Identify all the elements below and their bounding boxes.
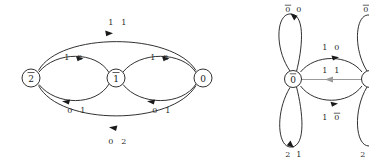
self-loop-top-r1-clipped	[357, 15, 369, 71]
label-self-loop-top-left: 0	[285, 5, 291, 14]
label-straight-left: 1	[322, 66, 328, 75]
arrowhead-arc-top-r0-to-r1	[332, 55, 340, 60]
node-right-0-bar-label: 0	[290, 75, 296, 85]
label-self-loop-top-right: 0	[296, 5, 302, 14]
arrowhead-arc-bottom-r0-to-r1	[331, 102, 339, 107]
label-clipped-bottom: 2	[360, 150, 366, 159]
label-arc-bottom-right: 0	[334, 113, 340, 122]
arrowhead-straight-gray-r1-to-r0	[325, 76, 333, 82]
node-right-0-bar-clipped[interactable]	[362, 71, 369, 88]
label-arc-top-right: 0	[334, 43, 340, 52]
figure-root: 2 1 0 1 1 1 2 0 1 1 2 0 1 0 2	[0, 0, 369, 161]
self-loop-top-r0	[279, 14, 302, 72]
right-transition-graph: 0 0 0 2 1 1 0 1 0 1 1 0 2	[0, 0, 369, 161]
arc-top-r0-to-r1	[301, 59, 363, 73]
arc-bottom-r0-to-r1	[301, 86, 363, 100]
label-arc-bottom-left: 1	[322, 113, 328, 122]
label-straight-right: 1	[334, 66, 340, 75]
label-clipped-top: 0	[363, 5, 369, 14]
self-loop-bottom-r1-clipped	[357, 87, 369, 146]
label-self-loop-bottom-left: 2	[285, 150, 291, 159]
label-arc-top-left: 1	[322, 43, 328, 52]
self-loop-bottom-r0	[280, 87, 302, 147]
label-self-loop-bottom-right: 1	[296, 150, 302, 159]
